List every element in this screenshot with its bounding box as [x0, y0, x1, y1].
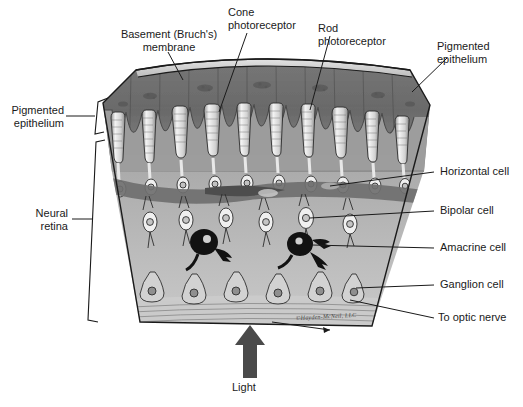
- label-rod-photoreceptor: Rod photoreceptor: [318, 22, 408, 48]
- horizontal-cell-body: [258, 189, 278, 197]
- bracket-neural-retina: [88, 140, 105, 322]
- label-bipolar-cell: Bipolar cell: [440, 204, 520, 217]
- label-amacrine-cell: Amacrine cell: [440, 241, 523, 254]
- label-to-optic-nerve: To optic nerve: [438, 311, 523, 324]
- label-pigmented-epithelium-left: Pigmented epithelium: [0, 104, 64, 130]
- label-ganglion-cell: Ganglion cell: [440, 278, 522, 291]
- retina-tissue-body: [103, 59, 432, 330]
- label-cone-photoreceptor: Cone photoreceptor: [228, 6, 318, 32]
- label-basement-membrane: Basement (Bruch's) membrane: [108, 28, 230, 54]
- label-light: Light: [232, 381, 272, 394]
- left-brackets: [88, 98, 108, 322]
- retina-diagram: Basement (Bruch's) membrane Cone photore…: [0, 0, 523, 407]
- light-arrow-icon: [235, 325, 265, 378]
- label-horizontal-cell: Horizontal cell: [440, 165, 523, 178]
- label-pigmented-epithelium-top: Pigmented epithelium: [437, 40, 519, 66]
- label-neural-retina: Neural retina: [10, 207, 68, 233]
